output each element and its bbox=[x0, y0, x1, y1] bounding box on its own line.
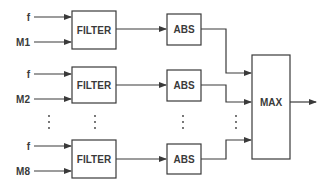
input-label-m8: M8 bbox=[16, 166, 30, 177]
abs-block-8-label: ABS bbox=[173, 154, 194, 165]
max-block-label: MAX bbox=[260, 97, 283, 108]
block-diagram: f M1 f M2 f M8 FILTER FILTER FILTER ABS … bbox=[0, 0, 334, 185]
input-label-m1: M1 bbox=[16, 37, 30, 48]
freq-label-8: f bbox=[27, 141, 31, 152]
freq-label-1: f bbox=[27, 12, 31, 23]
filter-block-8-label: FILTER bbox=[77, 154, 112, 165]
input-label-m2: M2 bbox=[16, 94, 30, 105]
ellipsis-dots bbox=[48, 115, 237, 129]
filter-block-2-label: FILTER bbox=[77, 80, 112, 91]
freq-label-2: f bbox=[27, 69, 31, 80]
filter-block-1-label: FILTER bbox=[77, 25, 112, 36]
abs-block-2-label: ABS bbox=[173, 80, 194, 91]
abs-block-1-label: ABS bbox=[173, 24, 194, 35]
